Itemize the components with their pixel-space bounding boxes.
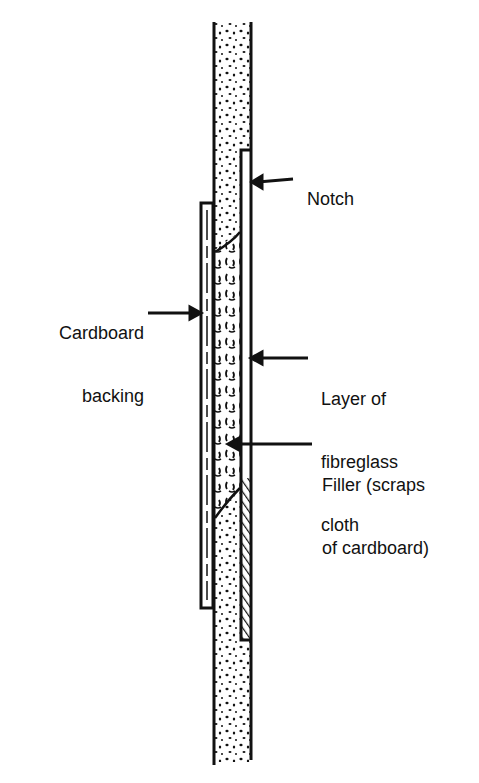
notch-label: Notch [297,168,354,210]
cardboard-backing-strip [201,203,213,608]
wall-section [214,22,251,765]
filler-label: Filler (scraps of cardboard) [322,433,429,580]
cardboard-backing-label: Cardboard backing [24,281,144,428]
